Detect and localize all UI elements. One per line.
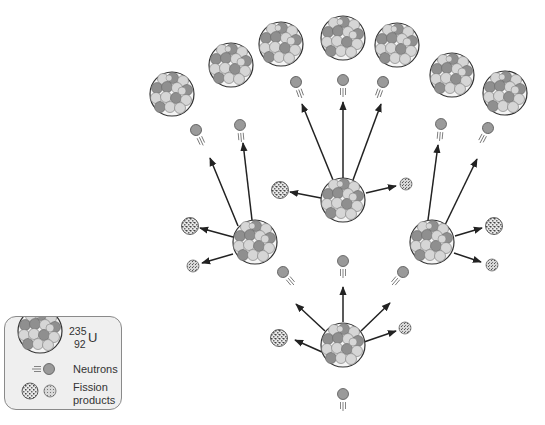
uranium-nucleus xyxy=(375,23,419,67)
uranium-nucleus xyxy=(321,178,365,222)
initial-neutron-icon xyxy=(338,389,349,412)
neutron-icon xyxy=(388,264,411,288)
fission-product-icon xyxy=(486,218,503,235)
legend-neutron-icon xyxy=(32,364,55,375)
fission-product-icon xyxy=(400,178,412,190)
fission-product-icon xyxy=(187,260,199,272)
initial-uranium-nucleus xyxy=(321,323,365,367)
gen1-neutrons xyxy=(275,256,410,289)
uranium-nucleus xyxy=(483,71,527,115)
gen3-nuclei xyxy=(150,16,527,116)
neutron-icon xyxy=(275,264,298,288)
uranium-nucleus xyxy=(259,22,303,66)
neutron-icon xyxy=(234,119,247,142)
uranium-nucleus xyxy=(150,72,194,116)
fission-product-icon xyxy=(272,182,289,199)
neutron-icon xyxy=(372,75,390,100)
neutron-icon xyxy=(289,75,307,100)
legend-fission-label-1: Fission xyxy=(73,381,108,393)
neutron-icon xyxy=(338,75,349,98)
neutron-icon xyxy=(434,118,447,141)
legend-fission-label-2: products xyxy=(73,394,115,406)
neutron-icon xyxy=(338,256,349,279)
legend-fission-product-icons xyxy=(22,383,56,399)
legend-neutrons-label: Neutrons xyxy=(73,363,118,375)
fission-product-icon xyxy=(271,330,288,347)
uranium-nucleus xyxy=(430,53,474,97)
fission-product-icon xyxy=(182,218,199,235)
fission-product-icon xyxy=(399,322,411,334)
legend-uranium-icon xyxy=(18,317,62,353)
neutron-icon xyxy=(475,121,495,146)
uranium-nucleus xyxy=(321,16,365,60)
legend-mass-number: 235 xyxy=(69,325,87,337)
neutron-icon xyxy=(189,123,208,148)
uranium-nucleus xyxy=(410,220,454,264)
legend-element-symbol: U xyxy=(88,330,97,345)
uranium-nucleus xyxy=(233,220,277,264)
legend-atomic-number: 92 xyxy=(74,338,86,350)
gen2-nuclei xyxy=(233,178,454,264)
legend: 235 U 92 Neutrons Fission products xyxy=(4,316,122,410)
fission-product-icon xyxy=(486,259,498,271)
uranium-nucleus xyxy=(209,43,253,87)
